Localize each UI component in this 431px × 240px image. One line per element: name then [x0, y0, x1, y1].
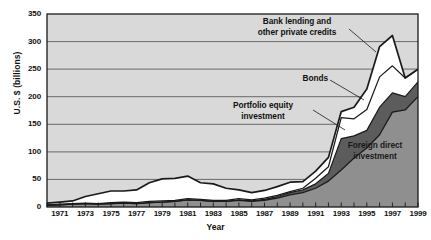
annotation-bonds: Bonds — [240, 73, 328, 84]
annotation-portfolio-equity-line2: investment — [215, 111, 311, 122]
y-tick-label: 50 — [11, 175, 41, 183]
y-tick-label: 0 — [11, 203, 41, 211]
annotation-foreign-direct-investment: Foreign direct investment — [330, 140, 420, 161]
annotation-bank-lending-line2: other private credits — [236, 27, 358, 38]
y-axis-label: U.S. $ (billions) — [12, 38, 22, 128]
annotation-fdi-line2: investment — [330, 151, 420, 162]
x-axis-label: Year — [0, 222, 431, 232]
annotation-fdi-line1: Foreign direct — [330, 140, 420, 151]
annotation-bank-lending-line1: Bank lending and — [236, 16, 358, 27]
annotation-portfolio-equity-line1: Portfolio equity — [215, 100, 311, 111]
x-tick-label: 1999 — [401, 210, 431, 218]
annotation-portfolio-equity: Portfolio equity investment — [215, 100, 311, 121]
y-tick-label: 100 — [11, 148, 41, 156]
chart-figure: 050100150200250300350 197119731975197719… — [0, 0, 431, 240]
annotation-bank-lending: Bank lending and other private credits — [236, 16, 358, 37]
y-tick-label: 350 — [11, 10, 41, 18]
